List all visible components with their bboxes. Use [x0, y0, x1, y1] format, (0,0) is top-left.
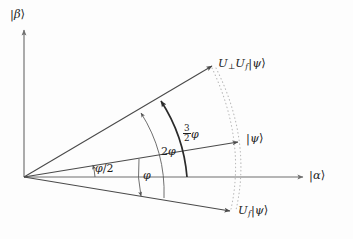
vector-u-perp-uf-psi — [24, 66, 212, 177]
vector-label-u-perp-uf-psi: U⊥Uf|ψ⟩ — [218, 58, 266, 71]
dotted-radius-arc-left — [212, 68, 236, 209]
vector-label-uf-psi: Uf|ψ⟩ — [238, 205, 268, 218]
vector-psi — [24, 142, 238, 177]
vector-diagram-svg — [0, 0, 353, 239]
angle-label-phi-half: φ/2 — [95, 163, 113, 174]
vector-label-psi: |ψ⟩ — [246, 133, 263, 145]
angle-label-phi: φ — [143, 170, 151, 181]
figure-canvas: |β⟩ |α⟩ U⊥Uf|ψ⟩ |ψ⟩ Uf|ψ⟩ φ/2 φ 2φ 32φ — [0, 0, 353, 239]
angle-label-two-phi: 2φ — [161, 146, 176, 157]
dotted-radius-arc-right — [216, 68, 241, 210]
axis-label-beta: |β⟩ — [10, 9, 25, 21]
axis-label-alpha: |α⟩ — [309, 170, 325, 182]
angle-label-three-half-phi: 32φ — [183, 124, 199, 143]
vector-uf-psi — [24, 177, 230, 211]
